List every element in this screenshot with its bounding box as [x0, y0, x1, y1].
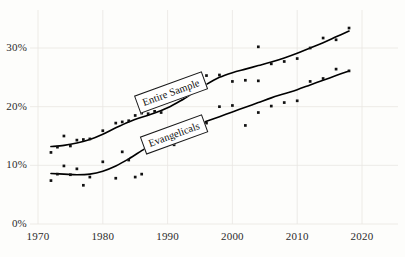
data-point: [283, 60, 286, 63]
data-point: [134, 114, 137, 117]
data-point: [134, 176, 137, 179]
data-point: [50, 151, 53, 154]
data-point: [82, 184, 85, 187]
chart-container: 0%10%20%30% 197019801990200020102020 Ent…: [0, 0, 405, 257]
y-tick-label: 20%: [6, 100, 27, 112]
data-point: [101, 160, 104, 163]
x-tick-label: 2000: [207, 230, 257, 242]
data-point: [63, 165, 66, 168]
data-point: [101, 129, 104, 132]
data-point: [244, 124, 247, 127]
data-point: [231, 104, 234, 107]
data-point: [153, 110, 156, 113]
grid-lines: [30, 10, 398, 224]
data-point: [160, 111, 163, 114]
data-point: [257, 45, 260, 48]
data-point: [50, 179, 53, 182]
data-point: [348, 70, 351, 73]
data-point: [121, 121, 124, 124]
data-point: [205, 74, 208, 77]
y-tick-label: 0%: [12, 217, 27, 229]
data-point: [88, 176, 91, 179]
data-point: [88, 138, 91, 141]
data-point: [244, 79, 247, 82]
data-point: [127, 159, 130, 162]
data-point: [121, 150, 124, 153]
data-point: [76, 168, 79, 171]
data-point: [296, 99, 299, 102]
data-point: [69, 145, 72, 148]
data-point: [140, 173, 143, 176]
data-point: [56, 146, 59, 149]
y-tick-label: 30%: [6, 41, 27, 53]
data-point: [257, 111, 260, 114]
data-point: [322, 37, 325, 40]
data-point: [296, 57, 299, 60]
data-point: [335, 38, 338, 41]
data-point: [270, 62, 273, 65]
data-point: [205, 122, 208, 125]
data-point: [348, 27, 351, 30]
data-point: [309, 47, 312, 50]
x-tick-label: 1990: [143, 230, 193, 242]
data-point: [147, 112, 150, 115]
data-point: [82, 138, 85, 141]
data-point: [218, 105, 221, 108]
data-point: [69, 173, 72, 176]
y-tick-label: 10%: [6, 158, 27, 170]
data-point: [63, 135, 66, 138]
data-point: [309, 80, 312, 83]
data-point: [283, 101, 286, 104]
x-tick-label: 2010: [272, 230, 322, 242]
data-point: [127, 119, 130, 122]
x-tick-label: 1980: [78, 230, 128, 242]
data-point: [76, 139, 79, 142]
data-point: [335, 68, 338, 71]
data-point: [114, 177, 117, 180]
data-point: [56, 173, 59, 176]
x-tick-label: 1970: [13, 230, 63, 242]
data-point: [257, 80, 260, 83]
x-tick-label: 2020: [337, 230, 387, 242]
data-point: [114, 122, 117, 125]
data-point: [322, 77, 325, 80]
data-point: [270, 105, 273, 108]
series-fit-curves: [51, 31, 349, 175]
data-point: [218, 74, 221, 77]
data-point: [231, 80, 234, 83]
